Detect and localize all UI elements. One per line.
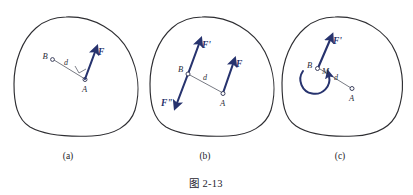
panel-b: F" F' B F A d (b) [150,17,274,162]
force-f-label-a: F [97,47,105,57]
force-f-double-prime-label-b: F" [160,98,173,108]
point-b-label-a: B [43,51,48,61]
point-b-marker-b [186,72,190,76]
figure-2-13-svg: B A d F (a) F" F' B [0,0,413,195]
panel-label-c: (c) [335,151,346,162]
force-f-prime-label-b: F' [201,40,211,50]
point-b-marker-c [316,67,320,71]
point-b-label-b: B [178,64,183,74]
panel-label-a: (a) [63,151,74,162]
force-f-prime-label-c: F' [332,36,342,46]
point-a-label-b: A [219,98,226,108]
point-b-marker-a [51,58,55,62]
panel-c: F' B M A d (c) [282,17,402,162]
point-a-label-a: A [81,84,88,94]
panel-a: B A d F (a) [14,17,138,162]
point-a-label-c: A [348,93,355,103]
point-a-marker-b [221,92,225,96]
force-f-label-b: F [235,59,243,69]
figure-container: B A d F (a) F" F' B [0,0,413,195]
rigid-body-outline-a [14,17,138,136]
panel-label-b: (b) [199,151,210,162]
moment-label-c: M [321,66,330,76]
rigid-body-outline-b [150,17,274,136]
point-b-label-c: B [307,60,312,70]
point-a-marker-c [350,87,354,91]
figure-caption: 图 2-13 [189,178,223,189]
